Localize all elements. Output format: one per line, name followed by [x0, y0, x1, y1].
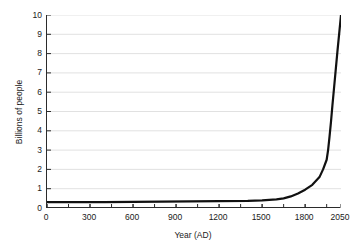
x-tick-label: 900	[153, 212, 197, 222]
y-tick-marks	[47, 15, 51, 208]
y-tick-label: 1	[2, 184, 42, 193]
y-tick-label: 7	[2, 68, 42, 77]
y-tick-label: 4	[2, 126, 42, 135]
x-axis-tick-labels: 03006009001200150018002050	[0, 212, 355, 226]
y-tick-label: 2	[2, 165, 42, 174]
x-tick-marks	[47, 204, 341, 208]
plot-canvas	[47, 15, 341, 208]
gridlines	[47, 15, 341, 189]
x-tick-label: 300	[67, 212, 111, 222]
population-growth-chart: Billions of people 012345678910 03006009…	[0, 0, 355, 249]
y-tick-label: 9	[2, 30, 42, 39]
series-line	[47, 15, 341, 202]
plot-area	[46, 15, 340, 208]
x-tick-label: 2050	[318, 212, 355, 222]
x-tick-label: 0	[24, 212, 68, 222]
y-tick-label: 6	[2, 88, 42, 97]
data-series-group	[47, 15, 341, 202]
x-axis-title: Year (AD)	[46, 230, 340, 240]
x-tick-label: 600	[110, 212, 154, 222]
y-tick-label: 5	[2, 107, 42, 116]
x-tick-label: 1500	[239, 212, 283, 222]
x-tick-label: 1200	[196, 212, 240, 222]
y-tick-label: 8	[2, 49, 42, 58]
y-tick-label: 3	[2, 146, 42, 155]
y-tick-label: 10	[2, 11, 42, 20]
